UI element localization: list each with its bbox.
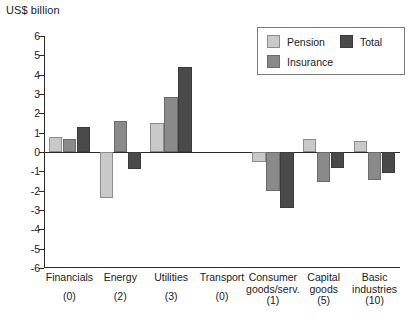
bar-group bbox=[150, 36, 192, 268]
y-tick-label: 1 bbox=[34, 127, 40, 139]
bar-total bbox=[77, 127, 91, 152]
bar-group bbox=[100, 36, 142, 268]
bar-total bbox=[178, 67, 192, 152]
legend-item-pension: Pension bbox=[267, 35, 325, 48]
legend-label-total: Total bbox=[360, 36, 382, 48]
y-tick-label: 4 bbox=[34, 69, 40, 81]
bar-pension bbox=[303, 139, 317, 152]
bar-insurance bbox=[368, 152, 382, 180]
x-axis-label-text: Basic bbox=[335, 272, 412, 284]
bar-pension bbox=[100, 152, 114, 198]
legend-label-insurance: Insurance bbox=[287, 56, 333, 68]
bar-pension bbox=[252, 152, 266, 162]
legend-label-pension: Pension bbox=[287, 36, 325, 48]
y-tick-label: -5 bbox=[31, 243, 40, 255]
legend-swatch-total-icon bbox=[340, 35, 353, 48]
bar-chart: US$ billion 6543210-1-2-3-4-5-6 Financia… bbox=[0, 0, 412, 321]
bar-pension bbox=[49, 137, 63, 152]
bar-total bbox=[331, 152, 345, 168]
y-tick-label: 2 bbox=[34, 107, 40, 119]
y-tick-label: 0 bbox=[34, 146, 40, 158]
bar-insurance bbox=[164, 97, 178, 152]
y-tick-label: 6 bbox=[34, 30, 40, 42]
bar-insurance bbox=[266, 152, 280, 191]
bar-pension bbox=[150, 123, 164, 152]
y-tick-label: -2 bbox=[31, 185, 40, 197]
y-tick-label: 3 bbox=[34, 88, 40, 100]
y-tick-label: -3 bbox=[31, 204, 40, 216]
bar-insurance bbox=[114, 121, 128, 152]
bar-insurance bbox=[63, 139, 77, 152]
bar-total bbox=[280, 152, 294, 208]
bar-group bbox=[201, 36, 243, 268]
bar-group bbox=[49, 36, 91, 268]
x-axis-label: Basicindustries(10) bbox=[335, 272, 412, 307]
x-axis-count-label: (10) bbox=[335, 295, 412, 307]
y-axis-title: US$ billion bbox=[6, 4, 60, 16]
bar-total bbox=[382, 152, 396, 173]
x-axis-labels: Financials(0)Energy(2)Utilities(3)Transp… bbox=[44, 272, 400, 318]
figure-caption bbox=[6, 313, 406, 321]
y-tick-label: 5 bbox=[34, 49, 40, 61]
chart-legend: Pension Total Insurance bbox=[257, 27, 405, 75]
legend-item-total: Total bbox=[340, 35, 382, 48]
legend-item-insurance: Insurance bbox=[267, 55, 333, 68]
bar-pension bbox=[354, 141, 368, 152]
bar-total bbox=[128, 152, 142, 169]
bar-insurance bbox=[317, 152, 331, 182]
y-tick-label: -1 bbox=[31, 165, 40, 177]
legend-swatch-pension-icon bbox=[267, 35, 280, 48]
y-tick-label: -4 bbox=[31, 223, 40, 235]
legend-swatch-insurance-icon bbox=[267, 55, 280, 68]
